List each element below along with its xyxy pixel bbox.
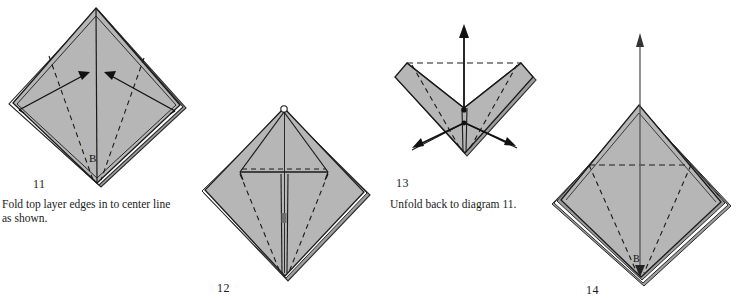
step-14-figure: B — [545, 28, 739, 293]
diagram-step-12 — [196, 100, 376, 290]
step-13-figure — [376, 22, 561, 182]
diagram-step-11: B — [0, 0, 200, 195]
unfold-arrow-up — [459, 24, 469, 113]
step-11-figure: B — [0, 0, 200, 195]
diagram-step-13 — [376, 22, 561, 182]
origami-diagram-page: B 11 Fold top layer edges in to center l… — [0, 0, 739, 303]
paper-main-face — [561, 105, 721, 277]
step-12-figure — [196, 100, 376, 290]
vertex-label-b: B — [89, 152, 96, 164]
apex-loop — [281, 106, 287, 112]
center-slit-marker — [282, 213, 287, 223]
step-caption-11: Fold top layer edges in to center line a… — [2, 198, 192, 225]
step-number-13: 13 — [396, 176, 409, 191]
step-number-12: 12 — [217, 281, 230, 296]
diagram-step-14: B — [545, 28, 739, 293]
step-number-11: 11 — [33, 177, 46, 192]
vertex-label-b: B — [633, 253, 640, 264]
step-number-14: 14 — [586, 283, 599, 298]
